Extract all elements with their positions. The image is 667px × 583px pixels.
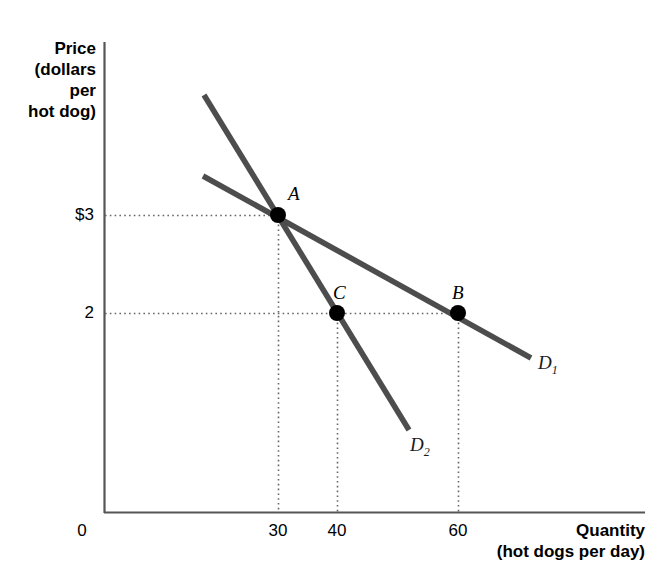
data-point-b bbox=[450, 305, 466, 321]
curve-label-d2-sub: 2 bbox=[424, 445, 430, 459]
point-label-c: C bbox=[333, 282, 346, 304]
curve-label-d2-letter: D bbox=[410, 434, 424, 455]
demand-curve-d2 bbox=[204, 95, 409, 430]
data-point-c bbox=[329, 305, 345, 321]
curve-label-d1-sub: 1 bbox=[552, 363, 558, 377]
data-point-a bbox=[270, 207, 286, 223]
demand-curve-chart: Price (dollars per hot dog) Quantity (ho… bbox=[0, 0, 667, 583]
y-tick-label-3: $3 bbox=[48, 205, 94, 225]
demand-curve-d1 bbox=[203, 176, 531, 358]
point-label-a: A bbox=[288, 183, 300, 205]
origin-label: 0 bbox=[72, 521, 92, 541]
y-tick-label-2: 2 bbox=[48, 303, 94, 323]
y-axis-title: Price (dollars per hot dog) bbox=[8, 38, 96, 122]
curve-label-d1-letter: D bbox=[538, 352, 552, 373]
x-tick-label-60: 60 bbox=[438, 521, 478, 541]
curve-label-d2: D2 bbox=[410, 434, 430, 460]
x-tick-label-40: 40 bbox=[317, 521, 357, 541]
curve-label-d1: D1 bbox=[538, 352, 558, 378]
x-tick-label-30: 30 bbox=[258, 521, 298, 541]
point-label-b: B bbox=[452, 282, 464, 304]
